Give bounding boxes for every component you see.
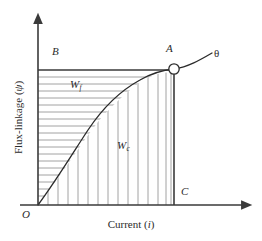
coenergy-symbol: W [117, 139, 126, 151]
y-axis-label-suffix: ) [12, 81, 24, 85]
field-energy-hatching [38, 77, 180, 203]
magnetization-curve [38, 53, 212, 205]
y-axis-label: Flux-linkage (ψ) [13, 53, 24, 183]
label-point-a: A [166, 43, 173, 54]
field-energy-symbol: W [70, 78, 79, 90]
label-coenergy: Wc [117, 140, 130, 153]
label-point-c: C [181, 186, 188, 197]
coenergy-subscript: c [126, 145, 129, 153]
y-axis-label-prefix: Flux-linkage ( [12, 91, 24, 154]
x-axis-label-suffix: ) [151, 218, 155, 230]
x-axis-label-prefix: Current ( [108, 218, 148, 230]
field-energy-subscript: f [79, 84, 81, 92]
label-point-b: B [52, 46, 59, 57]
magnetization-curve-figure: B A C O θ Wf Wc Current (i) Flux-linkage… [0, 0, 262, 241]
coenergy-hatching [48, 60, 171, 205]
y-axis-label-symbol: ψ [12, 85, 24, 92]
magnetization-curve-plot [0, 0, 262, 241]
label-theta-angle: θ [214, 48, 219, 59]
operating-point-a-marker [169, 64, 179, 74]
x-axis-label: Current (i) [0, 219, 262, 230]
label-field-energy: Wf [70, 79, 81, 92]
